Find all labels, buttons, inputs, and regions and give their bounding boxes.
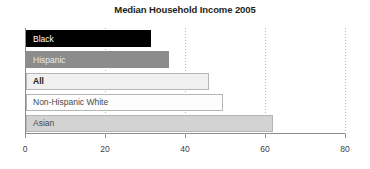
x-tick-label-0: 0 xyxy=(23,144,28,154)
x-tick-label-80: 80 xyxy=(340,144,349,154)
chart-title: Median Household Income 2005 xyxy=(0,4,370,15)
bar-row: Hispanic xyxy=(26,51,346,68)
x-tick-60 xyxy=(265,134,266,138)
bar-black: Black xyxy=(26,30,151,47)
x-tick-label-60: 60 xyxy=(260,144,269,154)
x-tick-80 xyxy=(345,134,346,138)
bar-hispanic: Hispanic xyxy=(26,51,169,68)
bar-row: Non-Hispanic White xyxy=(26,94,346,111)
chart-container: Median Household Income 2005 020406080 B… xyxy=(0,0,370,169)
bar-row: Black xyxy=(26,30,346,47)
bar-label-all: All xyxy=(33,77,44,86)
plot-area: 020406080 BlackHispanicAllNon-Hispanic W… xyxy=(25,28,345,134)
x-tick-label-40: 40 xyxy=(180,144,189,154)
bar-label-black: Black xyxy=(33,34,54,43)
bar-series: BlackHispanicAllNon-Hispanic WhiteAsian xyxy=(26,28,345,134)
bar-non-hispanic-white: Non-Hispanic White xyxy=(26,94,223,111)
bar-asian: Asian xyxy=(26,115,273,132)
bar-label-asian: Asian xyxy=(33,119,54,128)
bar-row: Asian xyxy=(26,115,346,132)
x-tick-40 xyxy=(185,134,186,138)
bar-row: All xyxy=(26,73,346,90)
bar-all: All xyxy=(26,73,209,90)
x-tick-20 xyxy=(105,134,106,138)
bar-label-non-hispanic-white: Non-Hispanic White xyxy=(33,98,108,107)
x-tick-label-20: 20 xyxy=(100,144,109,154)
x-tick-0 xyxy=(25,134,26,138)
bar-label-hispanic: Hispanic xyxy=(33,56,66,65)
